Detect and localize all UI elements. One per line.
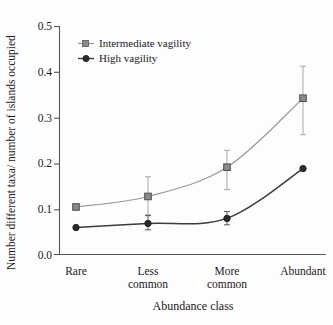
chart-legend: Intermediate vagility High vagility — [78, 37, 191, 64]
scatter-line-chart: Number different taxa/ number of islands… — [0, 0, 333, 325]
data-point-marker — [145, 220, 151, 226]
y-tick-label-0.0: 0.0 — [38, 249, 53, 261]
chart-figure: Number different taxa/ number of islands… — [0, 0, 333, 325]
data-point-marker — [73, 204, 80, 211]
legend-entry-high: High vagility — [78, 52, 158, 64]
data-point-marker — [300, 165, 306, 171]
x-tick-label-more-common-line1: More — [215, 265, 240, 277]
data-point-marker — [300, 95, 307, 102]
y-axis-label: Number different taxa/ number of islands… — [5, 35, 18, 270]
x-tick-label-less-common-line2: common — [128, 278, 168, 290]
y-tick-labels: 0.5 0.4 0.3 0.2 0.1 0.0 — [38, 20, 53, 261]
x-tick-label-less-common-line1: Less — [137, 265, 159, 277]
legend-label-high: High vagility — [99, 52, 158, 64]
series-line — [76, 98, 303, 207]
legend-marker-circle-icon — [83, 55, 89, 61]
legend-entry-intermediate: Intermediate vagility — [78, 37, 191, 49]
y-tick-label-0.1: 0.1 — [38, 203, 53, 215]
data-point-marker — [145, 193, 152, 200]
x-tick-label-abundant: Abundant — [280, 265, 326, 277]
y-tick-label-0.2: 0.2 — [38, 157, 53, 169]
series-line — [76, 169, 303, 228]
axis-lines — [54, 26, 326, 255]
x-tick-label-more-common-line2: common — [207, 278, 247, 290]
data-point-marker — [73, 224, 79, 230]
y-tick-label-0.4: 0.4 — [38, 66, 53, 78]
x-tick-label-rare: Rare — [65, 265, 87, 277]
data-point-marker — [224, 215, 230, 221]
legend-label-intermediate: Intermediate vagility — [99, 37, 191, 49]
data-point-marker — [224, 164, 231, 171]
series-high-vagility — [73, 165, 306, 230]
chart-data-layer — [73, 66, 307, 231]
x-tick-labels: Rare Less common More common Abundant — [65, 265, 326, 290]
y-tick-label-0.3: 0.3 — [38, 112, 53, 124]
x-axis-label: Abundance class — [153, 299, 234, 313]
legend-marker-square-icon — [83, 41, 89, 47]
y-tick-label-0.5: 0.5 — [38, 20, 53, 32]
